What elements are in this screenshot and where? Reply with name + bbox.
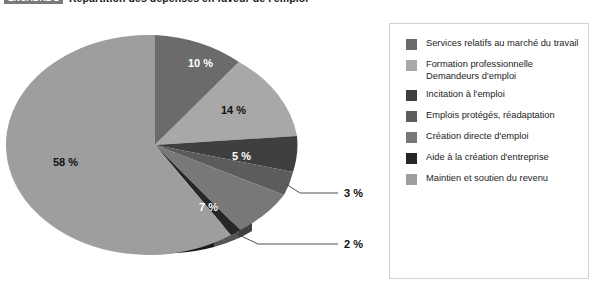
legend-list: Services relatifs au marché du travail F… [406,38,584,194]
legend-item[interactable]: Services relatifs au marché du travail [406,38,584,50]
legend-item-label: Aide à la création d'entreprise [426,152,549,164]
chart-figure: ENCADRÉ 2 Répartition des dépenses en fa… [0,0,595,302]
pie-leader-3 [286,184,338,193]
legend-swatch-icon [406,60,417,71]
legend-item[interactable]: Incitation à l'emploi [406,89,584,101]
pie-label-10: 10 % [188,57,213,69]
figure-title-badge: ENCADRÉ 2 [4,0,63,4]
pie-label-3: 3 % [344,187,363,199]
legend-item-label: Formation professionnelle Demandeurs d'e… [426,59,533,82]
legend-item-label: Incitation à l'emploi [426,89,505,101]
legend-item-label: Services relatifs au marché du travail [426,38,578,50]
pie-leader-2 [235,233,338,244]
legend-swatch-icon [406,153,417,164]
legend-swatch-icon [406,39,417,50]
legend-swatch-icon [406,174,417,185]
legend-swatch-icon [406,90,417,101]
legend-item[interactable]: Maintien et soutien du revenu [406,173,584,185]
pie-slices [6,35,297,255]
legend-item[interactable]: Formation professionnelle Demandeurs d'e… [406,59,584,82]
pie-chart-svg: 10 % 14 % 5 % 7 % 58 % 3 % 2 % [0,14,382,302]
legend-item-label: Création directe d'emploi [426,131,529,143]
legend-swatch-icon [406,132,417,143]
pie-label-2: 2 % [344,238,363,250]
pie-label-7: 7 % [199,201,218,213]
legend-item[interactable]: Aide à la création d'entreprise [406,152,584,164]
legend-item[interactable]: Création directe d'emploi [406,131,584,143]
legend-item[interactable]: Emplois protégés, réadaptation [406,110,584,122]
figure-title-text: Répartition des dépenses en faveur de l'… [69,0,308,4]
figure-title-cropped: ENCADRÉ 2 Répartition des dépenses en fa… [0,0,595,9]
legend-box: Services relatifs au marché du travail F… [389,23,589,279]
legend-swatch-icon [406,111,417,122]
legend-item-label: Maintien et soutien du revenu [426,173,548,185]
legend-item-label: Emplois protégés, réadaptation [426,110,555,122]
pie-chart: 10 % 14 % 5 % 7 % 58 % 3 % 2 % [0,14,382,302]
pie-label-58: 58 % [53,156,78,168]
pie-label-14: 14 % [221,104,246,116]
pie-label-5: 5 % [232,150,251,162]
